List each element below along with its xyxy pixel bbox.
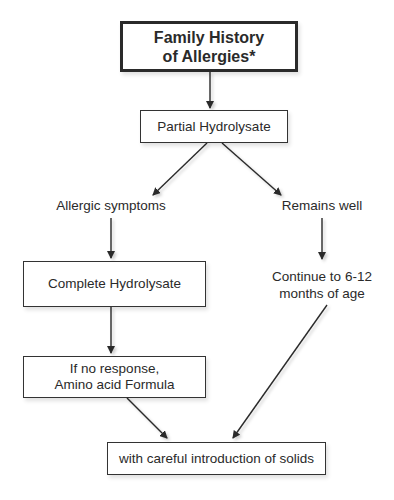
arrow-amino-to-final <box>127 398 167 438</box>
partial-hydrolysate-box: Partial Hydrolysate <box>140 110 288 143</box>
continue-line2: months of age <box>262 285 382 302</box>
remains-well-label: Remains well <box>262 197 382 214</box>
partial-hydrolysate-label: Partial Hydrolysate <box>157 119 270 135</box>
arrow-partial-to-well <box>222 143 281 195</box>
solids-label: with careful introduction of solids <box>119 451 314 467</box>
amino-acid-box: If no response, Amino acid Formula <box>23 356 206 398</box>
amino-line1: If no response, <box>70 361 159 377</box>
allergic-symptoms-label: Allergic symptoms <box>40 197 182 214</box>
arrow-continue-to-final <box>233 305 327 438</box>
continue-line1: Continue to 6-12 <box>262 268 382 285</box>
title-line2: of Allergies* <box>163 47 256 66</box>
family-history-box: Family History of Allergies* <box>120 21 298 72</box>
complete-hydrolysate-label: Complete Hydrolysate <box>48 276 181 292</box>
flow-arrows <box>0 0 394 500</box>
amino-line2: Amino acid Formula <box>54 377 174 393</box>
solids-introduction-box: with careful introduction of solids <box>107 442 326 475</box>
continue-label: Continue to 6-12 months of age <box>262 268 382 302</box>
complete-hydrolysate-box: Complete Hydrolysate <box>23 261 206 307</box>
title-line1: Family History <box>154 28 264 47</box>
arrow-partial-to-allergic <box>153 143 207 195</box>
